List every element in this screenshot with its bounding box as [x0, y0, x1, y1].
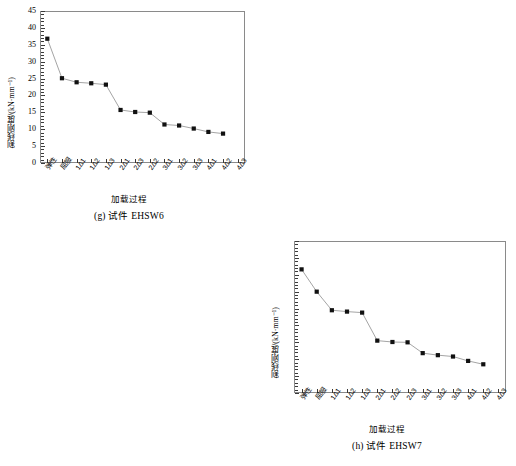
series-line — [47, 39, 223, 134]
data-point-marker — [118, 108, 122, 112]
x-axis-title-g: 加载过程 — [0, 192, 258, 204]
data-point-marker — [405, 340, 409, 344]
x-axis-title-h: 加载过程 — [258, 422, 516, 434]
data-point-marker — [192, 126, 196, 130]
y-tick-label: 25 — [16, 75, 36, 83]
data-point-marker — [466, 359, 470, 363]
data-point-marker — [481, 362, 485, 366]
caption-g: (g) 试件 EHSW6 — [0, 208, 258, 222]
data-point-marker — [89, 81, 93, 85]
data-point-marker — [177, 123, 181, 127]
y-axis-title-h: 割线刚度/(kN·mm⁻¹) — [272, 248, 280, 378]
chart-panel-h: 割线刚度/(kN·mm⁻¹) 弹性屈服1Δ11Δ21Δ32Δ12Δ22Δ33Δ1… — [258, 230, 516, 460]
data-point-marker — [299, 267, 303, 271]
data-point-marker — [60, 76, 64, 80]
y-major-tick — [41, 163, 45, 164]
series-line — [302, 269, 484, 364]
y-tick-label: 0 — [16, 159, 36, 167]
data-point-marker — [206, 130, 210, 134]
data-point-marker — [148, 111, 152, 115]
y-tick-label: 45 — [16, 7, 36, 15]
y-tick-label: 40 — [16, 24, 36, 32]
y-tick-label: 5 — [16, 142, 36, 150]
data-point-marker — [315, 290, 319, 294]
y-tick-label: 15 — [16, 108, 36, 116]
data-point-marker — [390, 340, 394, 344]
data-point-marker — [360, 311, 364, 315]
chart-panel-g: 割线刚度/(kN·mm⁻¹) 051015202530354045 弹性屈服1Δ… — [0, 0, 258, 230]
y-major-tick — [295, 393, 299, 394]
data-point-marker — [75, 80, 79, 84]
data-point-marker — [436, 353, 440, 357]
data-point-marker — [104, 83, 108, 87]
data-point-marker — [221, 132, 225, 136]
y-tick-label: 20 — [16, 91, 36, 99]
caption-h: (h) 试件 EHSW7 — [258, 438, 516, 452]
y-tick-label: 30 — [16, 58, 36, 66]
y-tick-label: 35 — [16, 41, 36, 49]
data-point-marker — [133, 110, 137, 114]
data-series-h — [294, 241, 506, 393]
y-tick-label: 10 — [16, 125, 36, 133]
y-axis-title-g: 割线刚度/(kN·mm⁻¹) — [8, 18, 16, 148]
data-point-marker — [162, 122, 166, 126]
data-series-g — [40, 11, 245, 163]
data-point-marker — [45, 37, 49, 41]
data-point-marker — [330, 308, 334, 312]
data-point-marker — [375, 339, 379, 343]
data-point-marker — [345, 310, 349, 314]
data-point-marker — [421, 351, 425, 355]
data-point-marker — [451, 354, 455, 358]
